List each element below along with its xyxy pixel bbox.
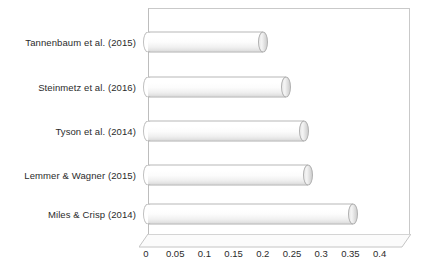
bar-body bbox=[148, 121, 304, 142]
bar bbox=[148, 32, 268, 53]
bar bbox=[148, 121, 309, 142]
bar bbox=[148, 165, 313, 186]
x-tick-label: 0.2 bbox=[256, 248, 269, 259]
bar-body bbox=[148, 32, 263, 53]
bar-body bbox=[148, 165, 308, 186]
x-tick-label: 0.05 bbox=[166, 248, 185, 259]
bar-end-cap bbox=[303, 165, 313, 186]
bar-end-cap bbox=[348, 204, 358, 225]
x-tick-label: 0.4 bbox=[373, 248, 386, 259]
bar-end-cap bbox=[258, 32, 268, 53]
x-tick-label: 0.25 bbox=[283, 248, 302, 259]
x-tick-label: 0.35 bbox=[341, 248, 360, 259]
bar bbox=[148, 204, 358, 225]
bar-end-cap bbox=[281, 77, 291, 98]
bar-end-cap bbox=[299, 121, 309, 142]
x-tick-label: 0.15 bbox=[224, 248, 243, 259]
bars-layer bbox=[0, 0, 425, 271]
x-tick-label: 0 bbox=[143, 248, 148, 259]
x-tick-label: 0.3 bbox=[315, 248, 328, 259]
bar-body bbox=[148, 77, 286, 98]
x-axis-tick-labels: 00.050.10.150.20.250.30.350.4 bbox=[0, 248, 425, 264]
bar-chart: Tannenbaum et al. (2015)Steinmetz et al.… bbox=[0, 0, 425, 271]
x-tick-label: 0.1 bbox=[198, 248, 211, 259]
bar-body bbox=[148, 204, 353, 225]
bar bbox=[148, 77, 291, 98]
